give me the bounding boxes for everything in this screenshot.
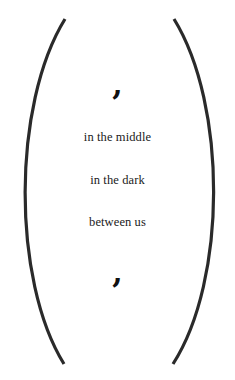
- poem-line-1: in the middle: [0, 129, 235, 145]
- top-comma: ,: [0, 70, 235, 100]
- poem-line-2: in the dark: [0, 172, 235, 188]
- bottom-comma: ,: [0, 258, 235, 288]
- poem-card: , in the middle in the dark between us ,: [0, 0, 235, 380]
- poem-line-3: between us: [0, 214, 235, 230]
- parentheses-frame: [0, 0, 235, 380]
